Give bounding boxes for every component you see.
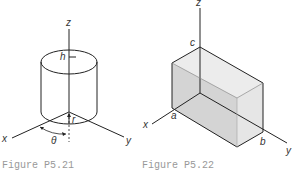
- x-label: x: [1, 133, 8, 144]
- c-label: c: [190, 37, 195, 48]
- z-label: z: [195, 0, 201, 8]
- z-label: z: [65, 17, 71, 28]
- caption: Figure P5.21: [2, 160, 74, 171]
- figure-p5-22: z c a x b y Figure P5.22: [142, 0, 292, 171]
- x-label: x: [142, 119, 149, 130]
- figure-canvas: z h r θ x y Figure P5.21 z c a x b y Fig…: [0, 0, 294, 171]
- caption: Figure P5.22: [142, 160, 214, 171]
- figure-p5-21: z h r θ x y Figure P5.21: [1, 17, 132, 171]
- theta-arc: [40, 127, 66, 134]
- theta-label: θ: [51, 135, 57, 146]
- h-label: h: [60, 51, 66, 62]
- y-label: y: [285, 145, 292, 156]
- y-axis: [69, 112, 124, 137]
- y-label: y: [125, 135, 132, 146]
- a-label: a: [171, 110, 177, 121]
- b-label: b: [260, 136, 266, 147]
